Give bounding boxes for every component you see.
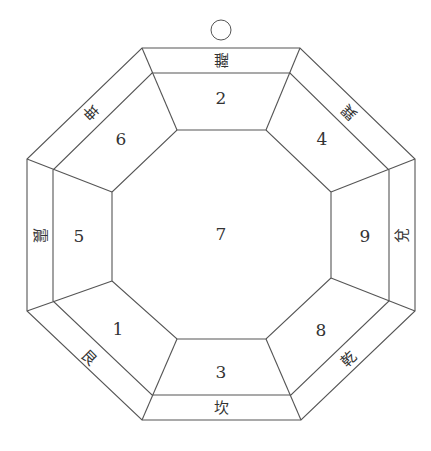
trigram-left: 震 (31, 228, 49, 243)
trigram-bottom-right: 乾 (337, 347, 360, 370)
sector-number-bottom-right: 8 (316, 320, 327, 340)
top-marker-circle (211, 20, 231, 40)
sector-number-bottom-left: 1 (113, 319, 124, 339)
center-number: 7 (216, 224, 227, 244)
trigram-right: 兌 (393, 228, 411, 243)
divider-line (266, 339, 301, 420)
divider-line (142, 48, 177, 130)
trigram-top: 離 (214, 51, 229, 69)
divider-line (27, 281, 112, 311)
sector-number-right: 9 (360, 226, 371, 246)
sector-number-top-right: 4 (317, 129, 328, 149)
divider-line (331, 278, 415, 311)
sector-number-bottom: 3 (216, 362, 227, 382)
divider-line (331, 159, 415, 192)
sector-number-top: 2 (216, 88, 227, 108)
divider-line (266, 48, 300, 130)
divider-line (142, 339, 177, 420)
trigram-top-left: 坤 (78, 100, 101, 123)
bagua-diagram: 7 2 4 9 8 3 1 5 6 離 巽 兌 乾 坎 艮 震 坤 (0, 0, 431, 451)
trigram-bottom: 坎 (214, 399, 229, 417)
sector-number-left: 5 (74, 226, 85, 246)
trigram-bottom-left: 艮 (77, 346, 100, 369)
sector-number-top-left: 6 (116, 129, 127, 149)
divider-line (27, 159, 112, 192)
